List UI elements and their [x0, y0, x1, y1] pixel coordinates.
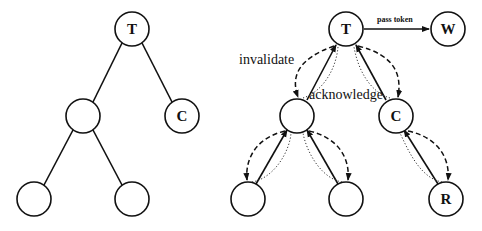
svg-text:W: W [441, 21, 456, 37]
svg-text:T: T [127, 21, 137, 37]
diagram-canvas: T C T W C R pass token invalidate acknow… [0, 0, 482, 231]
left-tree-edges [44, 43, 172, 185]
acknowledge-label: acknowledge [309, 87, 383, 102]
right-node-bm [329, 182, 363, 216]
left-node-bl [17, 182, 51, 216]
svg-text:C: C [391, 108, 402, 124]
right-node-bl [231, 182, 265, 216]
invalidate-label: invalidate [239, 52, 294, 67]
left-node-br [115, 182, 149, 216]
left-node-mid [66, 99, 100, 133]
pass-token-label: pass token [377, 15, 413, 24]
right-node-mid [280, 99, 314, 133]
right-tree: T W C R [231, 12, 465, 216]
svg-text:T: T [341, 21, 351, 37]
left-tree: T C [17, 12, 199, 216]
svg-text:C: C [177, 108, 188, 124]
svg-text:R: R [441, 191, 452, 207]
